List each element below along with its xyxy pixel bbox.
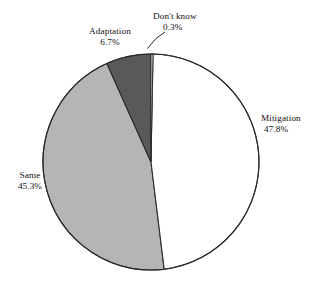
slice-label-dontknow: Don't know 0.3% bbox=[153, 11, 197, 33]
slice-label-same-name: Same bbox=[20, 170, 41, 180]
slice-label-dontknow-value: 0.3% bbox=[163, 22, 197, 33]
slice-label-mitigation-name: Mitigation bbox=[261, 113, 301, 123]
slice-label-adaptation-name: Adaptation bbox=[89, 26, 131, 36]
slice-label-mitigation-value: 47.8% bbox=[264, 124, 301, 135]
slice-label-same: Same 45.3% bbox=[7, 170, 53, 192]
dontknow-leader-line bbox=[148, 32, 166, 49]
pie-chart-svg bbox=[0, 0, 309, 287]
slice-label-same-value: 45.3% bbox=[7, 181, 53, 192]
pie-chart-figure: Don't know 0.3% Adaptation 6.7% Mitigati… bbox=[0, 0, 309, 287]
slice-label-dontknow-name: Don't know bbox=[153, 11, 197, 21]
slice-label-adaptation-value: 6.7% bbox=[79, 37, 141, 48]
slice-label-adaptation: Adaptation 6.7% bbox=[79, 26, 141, 48]
pie-slice-mitigation bbox=[151, 54, 259, 269]
slice-label-mitigation: Mitigation 47.8% bbox=[261, 113, 301, 135]
